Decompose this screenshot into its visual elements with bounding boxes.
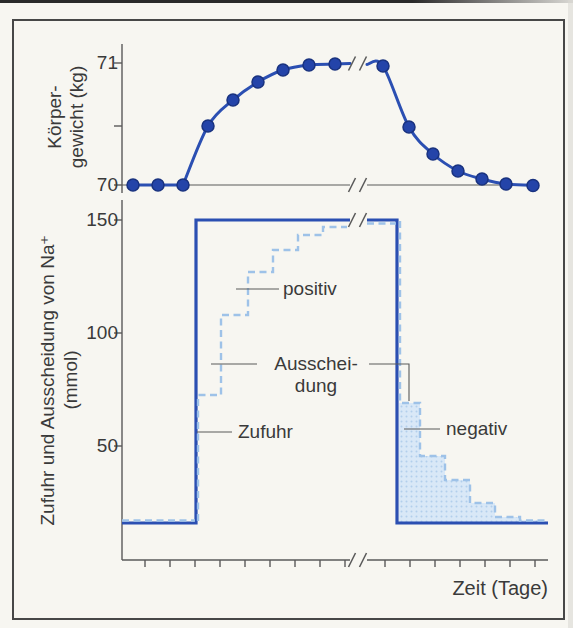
- weight-point: [227, 94, 239, 106]
- weight-point: [252, 76, 264, 88]
- weight-point: [202, 120, 214, 132]
- na-axis-label-line1: Zufuhr und Ausscheidung von Na⁺: [36, 200, 59, 560]
- axis-break: [360, 57, 367, 71]
- zufuhr-label: Zufuhr: [238, 421, 293, 443]
- weight-point: [476, 173, 488, 185]
- weight-point: [127, 179, 139, 191]
- na-axis-label: Zufuhr und Ausscheidung von Na⁺ (mmol): [36, 200, 82, 560]
- weight-point: [427, 148, 439, 160]
- weight-point: [452, 165, 464, 177]
- ausscheidung-label-line2: dung: [258, 375, 374, 397]
- weight-point: [329, 58, 341, 70]
- weight-point: [527, 180, 539, 192]
- x-axis-label: Zeit (Tage): [408, 577, 548, 599]
- weight-point: [277, 64, 289, 76]
- negative-balance-label: negativ: [446, 418, 507, 440]
- weight-point: [177, 179, 189, 191]
- weight-axis-label-line1: Körper-: [44, 37, 66, 197]
- na-axis-label-line2: (mmol): [59, 200, 82, 560]
- axis-break: [360, 178, 367, 192]
- ausscheidung-label: Ausschei- dung: [258, 353, 374, 397]
- weight-axis-label-line2: gewicht (kg): [66, 37, 88, 197]
- axis-break: [360, 213, 367, 227]
- weight-line-fall: [367, 61, 537, 185]
- ausscheidung-callout-right: [369, 364, 409, 401]
- zufuhr-line-right: [367, 220, 548, 523]
- ausscheidung-label-line1: Ausschei-: [258, 353, 374, 375]
- axis-break: [360, 553, 367, 567]
- weight-point: [377, 60, 389, 72]
- positive-balance-label: positiv: [283, 278, 337, 300]
- weight-axis-label: Körper- gewicht (kg): [44, 37, 88, 197]
- weight-point: [303, 59, 315, 71]
- weight-point: [500, 178, 512, 190]
- weight-point: [403, 121, 415, 133]
- weight-point: [152, 179, 164, 191]
